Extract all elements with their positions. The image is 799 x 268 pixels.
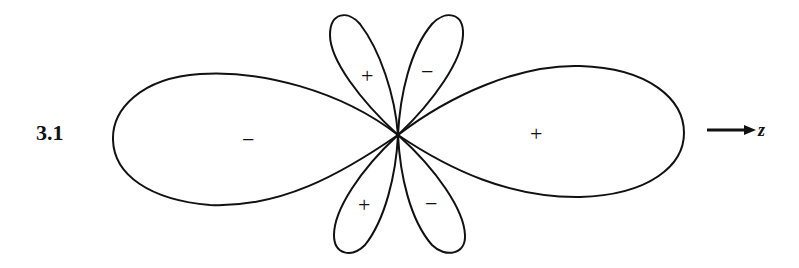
- lower-right-lobe-sign: −: [425, 191, 437, 216]
- z-axis-label: z: [757, 120, 765, 140]
- left-large-lobe: [113, 74, 398, 206]
- left-large-lobe-sign: −: [242, 127, 254, 152]
- upper-right-lobe-sign: −: [421, 59, 433, 84]
- right-large-lobe-sign: +: [530, 121, 542, 146]
- upper-left-lobe-sign: +: [361, 63, 373, 88]
- orbital-lobe-diagram: − + + − + − z: [0, 0, 799, 268]
- z-axis-arrowhead: [744, 125, 756, 135]
- lower-left-lobe-sign: +: [358, 192, 370, 217]
